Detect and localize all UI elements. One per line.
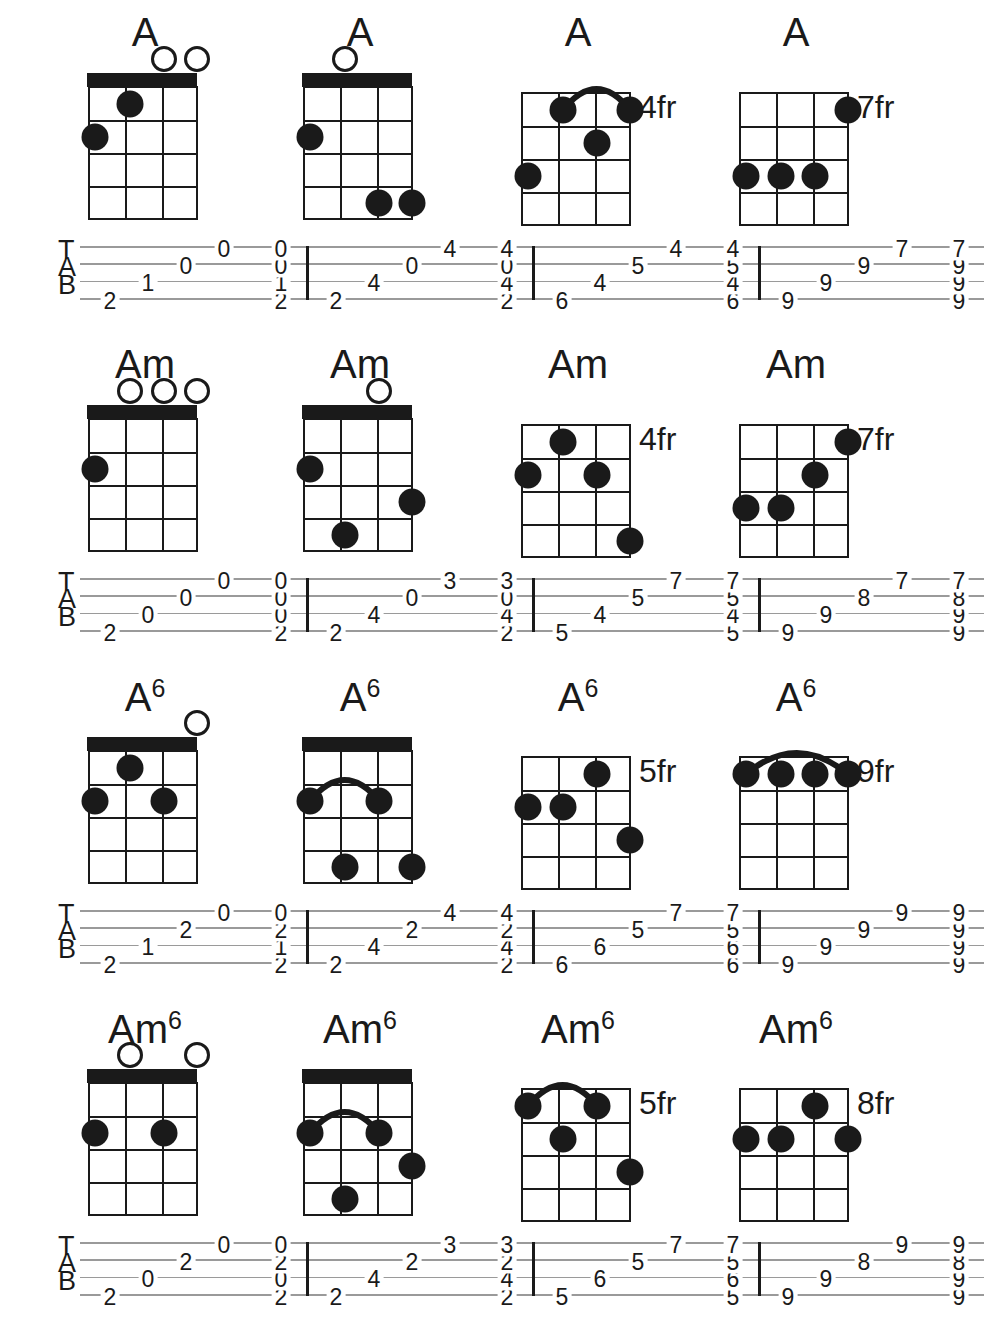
fret-line: [305, 784, 411, 787]
chord-cell: A65fr: [468, 664, 688, 904]
fret-line: [523, 192, 629, 195]
chord-cell: A: [35, 0, 255, 240]
tab-note-number: 2: [101, 953, 120, 976]
chord-cell: A: [250, 0, 470, 240]
chord-cell: Am: [250, 332, 470, 572]
finger-dot: [116, 755, 143, 782]
fret-line: [741, 458, 847, 461]
chord-root-text: A: [558, 675, 585, 719]
finger-dot: [366, 787, 393, 814]
tab-note-number: 4: [498, 901, 517, 924]
tab-note-number: 0: [215, 569, 234, 592]
tab-note-number: 3: [498, 1233, 517, 1256]
chord-extension-text: 6: [366, 674, 380, 702]
fretboard-diagram: [88, 1082, 198, 1216]
fretboard-grid: [521, 92, 631, 226]
fret-line: [90, 1182, 196, 1185]
chord-name-label: Am: [468, 344, 688, 384]
fretboard-grid: [303, 1082, 413, 1216]
tab-note-number: 7: [724, 901, 743, 924]
tab-bar-line: [758, 246, 761, 300]
chord-extension-text: 6: [151, 674, 165, 702]
tab-note-number: 5: [629, 1250, 648, 1273]
chord-name-label: Am: [35, 344, 255, 384]
finger-dot: [549, 1125, 576, 1152]
finger-dot: [733, 162, 760, 189]
tab-note-number: 0: [139, 1268, 158, 1291]
nut-bar: [87, 737, 197, 751]
fret-line: [90, 120, 196, 123]
tab-note-number: 0: [177, 254, 196, 277]
chord-name-label: A6: [250, 676, 470, 717]
fretboard-diagram: [88, 750, 198, 884]
open-string-marker: [184, 710, 210, 736]
fretboard-diagram: [303, 86, 413, 220]
fret-position-label: 7fr: [857, 423, 894, 455]
tab-staff-lines: 20002000240324035457545799879987: [80, 578, 984, 634]
finger-dot: [398, 488, 425, 515]
fretboard-diagram: [303, 418, 413, 552]
fret-line: [523, 458, 629, 461]
nut-bar: [302, 405, 412, 419]
finger-dot: [549, 97, 576, 124]
tab-note-number: 4: [724, 237, 743, 260]
nut-bar: [87, 73, 197, 87]
tab-bar-line: [532, 910, 535, 964]
fretboard-grid: [739, 424, 849, 558]
fretboard-grid: [303, 750, 413, 884]
tab-note-number: 7: [724, 1233, 743, 1256]
chord-root-text: Am: [759, 1007, 819, 1051]
fret-line: [741, 1122, 847, 1125]
tab-note-number: 2: [177, 1250, 196, 1273]
chord-cell: A6: [35, 664, 255, 904]
finger-dot: [584, 761, 611, 788]
fret-line: [523, 126, 629, 129]
finger-dot: [398, 190, 425, 217]
chord-cell: Am68fr: [686, 996, 906, 1236]
finger-dot: [297, 787, 324, 814]
tab-bar-line: [758, 578, 761, 632]
tab-note-number: 5: [553, 1285, 572, 1308]
tab-note-number: 0: [272, 569, 291, 592]
fret-line: [305, 452, 411, 455]
fret-line: [523, 159, 629, 162]
finger-dot: [767, 1125, 794, 1152]
fretboard-diagram: 5fr: [521, 756, 631, 890]
finger-dot: [366, 1119, 393, 1146]
tab-note-number: 9: [855, 254, 874, 277]
fret-line: [305, 817, 411, 820]
finger-dot: [549, 793, 576, 820]
finger-dot: [515, 793, 542, 820]
tab-note-number: 5: [629, 586, 648, 609]
tab-note-number: 4: [591, 272, 610, 295]
finger-dot: [82, 1119, 109, 1146]
fret-line: [741, 823, 847, 826]
fret-line: [523, 1188, 629, 1191]
fretboard-grid: [739, 1088, 849, 1222]
finger-dot: [616, 826, 643, 853]
finger-dot: [297, 123, 324, 150]
tab-bar-line: [306, 246, 309, 300]
open-string-marker: [117, 378, 143, 404]
tab-note-number: 0: [215, 901, 234, 924]
fretboard-diagram: [88, 418, 198, 552]
finger-dot: [151, 787, 178, 814]
fretboard-grid: [88, 1082, 198, 1216]
chord-extension-text: 6: [802, 674, 816, 702]
fretboard-diagram: 9fr: [739, 756, 849, 890]
open-string-marker: [332, 46, 358, 72]
fretboard-diagram: 7fr: [739, 92, 849, 226]
fretboard-grid: [88, 86, 198, 220]
fret-line: [90, 1116, 196, 1119]
fret-position-label: 5fr: [639, 755, 676, 787]
Am6-chord-row: Am6Am6Am65frAm68frTAB2020202024232423565…: [0, 996, 1004, 1328]
fret-line: [523, 524, 629, 527]
finger-dot: [297, 1119, 324, 1146]
tab-note-number: 5: [629, 254, 648, 277]
finger-dot: [398, 1152, 425, 1179]
tab-staff-lines: 21202120242424246657665799999999: [80, 910, 984, 966]
chord-name-label: A: [250, 12, 470, 52]
open-string-marker: [184, 46, 210, 72]
finger-dot: [366, 190, 393, 217]
fret-line: [523, 1122, 629, 1125]
